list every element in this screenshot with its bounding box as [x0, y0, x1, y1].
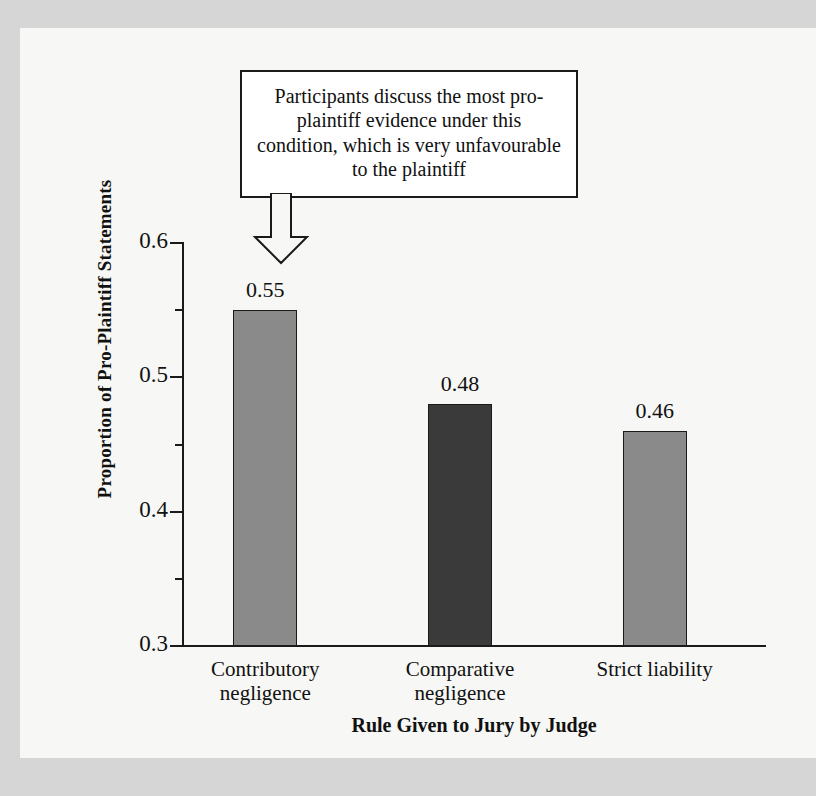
category-label: Comparativenegligence [365, 658, 555, 705]
bar [428, 404, 492, 646]
bar-value-label: 0.55 [205, 279, 325, 301]
bar-value-label: 0.48 [400, 373, 520, 395]
bar [623, 431, 687, 646]
figure-screenshot: 0.30.40.50.6 Proportion of Pro-Plaintiff… [0, 0, 816, 796]
category-label: Contributorynegligence [170, 658, 360, 705]
figure-panel: 0.30.40.50.6 Proportion of Pro-Plaintiff… [20, 28, 816, 758]
y-tick-minor [175, 309, 182, 311]
y-tick-major [170, 645, 182, 647]
bar-value-label: 0.46 [595, 400, 715, 422]
down-arrow-icon [252, 193, 310, 265]
x-axis-title: Rule Given to Jury by Judge [182, 714, 766, 737]
annotation-callout: Participants discuss the most pro-plaint… [240, 70, 578, 198]
plot-area: 0.30.40.50.6 Proportion of Pro-Plaintiff… [20, 28, 816, 758]
y-tick-label: 0.3 [20, 632, 168, 655]
y-axis-title: Proportion of Pro-Plaintiff Statements [94, 179, 116, 499]
category-label-line: negligence [170, 682, 360, 706]
y-tick-label: 0.4 [20, 498, 168, 521]
category-label: Strict liability [560, 658, 750, 682]
category-label-line: Contributory [170, 658, 360, 682]
category-label-line: Strict liability [560, 658, 750, 682]
bar [233, 310, 297, 646]
y-tick-minor [175, 578, 182, 580]
y-tick-major [170, 511, 182, 513]
category-label-line: negligence [365, 682, 555, 706]
category-label-line: Comparative [365, 658, 555, 682]
y-axis-line [182, 242, 184, 647]
y-tick-major [170, 376, 182, 378]
y-tick-minor [175, 444, 182, 446]
y-tick-major [170, 242, 182, 244]
